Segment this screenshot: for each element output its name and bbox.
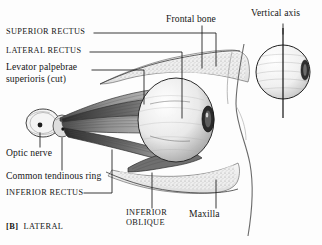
eyeball-globe (138, 78, 214, 162)
label-frontal-bone: Frontal bone (166, 14, 216, 24)
panel-letter: [B] (6, 222, 18, 231)
label-levator-palpebrae-line1: Levator palpebrae (6, 62, 77, 72)
label-common-tendinous-ring: Common tendinous ring (6, 171, 101, 181)
panel-caption-text: LATERAL (23, 222, 63, 231)
label-inferior-rectus: INFERIOR RECTUS (6, 189, 83, 198)
panel-caption: [B]LATERAL (6, 222, 63, 231)
label-levator-palpebrae-line2: superioris (cut) (6, 74, 66, 84)
label-vertical-axis: Vertical axis (251, 8, 300, 18)
anatomy-figure: SUPERIOR RECTUS LATERAL RECTUS Levator p… (0, 0, 322, 245)
label-inferior-oblique-line1: INFERIOR (126, 209, 167, 218)
cornea (202, 106, 214, 132)
label-inferior-oblique-line2: OBLIQUE (126, 219, 165, 228)
label-superior-rectus: SUPERIOR RECTUS (6, 28, 85, 37)
label-optic-nerve: Optic nerve (6, 148, 52, 158)
sphere-cornea (301, 60, 309, 80)
label-lateral-rectus: LATERAL RECTUS (6, 47, 81, 56)
label-maxilla: Maxilla (189, 209, 220, 219)
